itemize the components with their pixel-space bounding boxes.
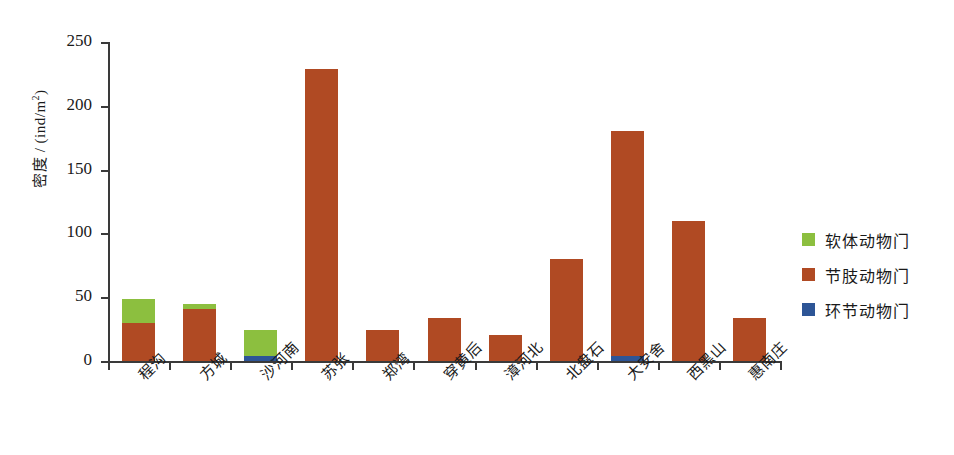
x-axis-tick — [108, 361, 110, 370]
bar-chart: 密度 / (ind/m2) 050100150200250 程沟方城沙河南苏张郑… — [0, 0, 954, 455]
legend-item[interactable]: 软体动物门 — [802, 222, 952, 257]
x-axis-tick — [413, 361, 415, 370]
legend-item[interactable]: 环节动物门 — [802, 292, 952, 327]
legend-label: 软体动物门 — [825, 228, 910, 252]
y-axis-tick: 100 — [101, 233, 109, 235]
bar-group[interactable] — [672, 221, 705, 361]
y-axis-title-base: 密度 / (ind/m — [32, 100, 48, 187]
x-axis-tick — [169, 361, 171, 370]
y-axis-tick-label: 100 — [67, 222, 93, 242]
legend-label: 环节动物门 — [825, 298, 910, 322]
y-axis-tick-label: 150 — [67, 159, 93, 179]
y-axis-tick-label: 250 — [67, 31, 93, 51]
bar-segment[interactable] — [550, 259, 583, 361]
x-axis-tick — [475, 361, 477, 370]
legend-item[interactable]: 节肢动物门 — [802, 257, 952, 292]
bar-segment[interactable] — [305, 69, 338, 361]
x-axis-tick — [291, 361, 293, 370]
y-axis-tick-label: 50 — [75, 286, 92, 306]
plot-area: 050100150200250 程沟方城沙河南苏张郑湾穿黄后漳河北北盘石大安舍西… — [108, 42, 780, 361]
legend: 软体动物门节肢动物门环节动物门 — [802, 222, 952, 327]
bar-group[interactable] — [611, 131, 644, 361]
y-axis-line — [108, 42, 110, 362]
y-axis-tick: 250 — [101, 42, 109, 44]
x-axis-tick — [536, 361, 538, 370]
y-axis-title: 密度 / (ind/m2) — [28, 39, 49, 239]
y-axis-tick: 200 — [101, 106, 109, 108]
legend-swatch-icon — [802, 303, 815, 316]
bar-group[interactable] — [305, 69, 338, 361]
legend-label: 节肢动物门 — [825, 263, 910, 287]
bar-group[interactable] — [550, 259, 583, 361]
x-axis-tick — [352, 361, 354, 370]
y-axis-title-exponent: 2 — [30, 95, 41, 101]
x-axis-tick — [780, 361, 782, 370]
y-axis-title-close: ) — [32, 89, 48, 95]
x-axis-tick — [597, 361, 599, 370]
x-axis-tick — [230, 361, 232, 370]
bar-segment[interactable] — [122, 299, 155, 323]
bar-segment[interactable] — [611, 131, 644, 356]
y-axis-tick-label: 200 — [67, 95, 93, 115]
bar-segment[interactable] — [672, 221, 705, 361]
y-axis-tick-label: 0 — [84, 350, 93, 370]
x-axis-tick — [658, 361, 660, 370]
y-axis-tick: 150 — [101, 170, 109, 172]
legend-swatch-icon — [802, 268, 815, 281]
y-axis-tick: 50 — [101, 297, 109, 299]
x-axis-tick — [719, 361, 721, 370]
legend-swatch-icon — [802, 233, 815, 246]
